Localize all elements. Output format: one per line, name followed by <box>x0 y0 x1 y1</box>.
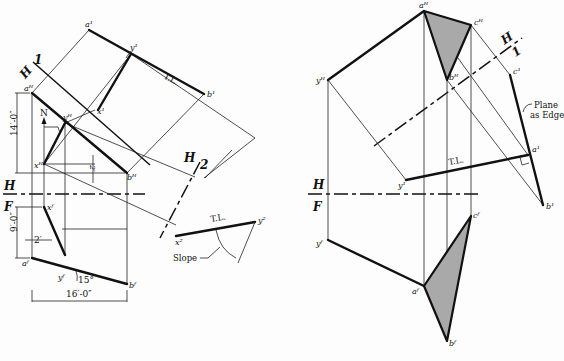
point-bF: bᶠ <box>129 281 137 290</box>
projector <box>447 80 543 205</box>
fold-label-f: F <box>3 200 14 214</box>
point-bH: bᴴ <box>127 173 137 182</box>
dim-14ft: 14′-0″ <box>9 110 19 136</box>
point-y1-right: y¹ <box>397 181 406 190</box>
north-label: N <box>40 108 48 118</box>
fold-label-h2-h: H <box>183 151 196 165</box>
fold-label-h: H <box>3 179 16 193</box>
triangle-h-view <box>424 11 471 80</box>
right-angle-mark-right <box>520 157 529 165</box>
triangle-f-view <box>424 216 471 341</box>
line-a1-b1 <box>89 30 204 94</box>
point-yH: yᴴ <box>62 113 73 122</box>
fold-label-h1-n: 1 <box>34 53 42 67</box>
point-c1-right: c¹ <box>513 67 521 76</box>
point-aF-right: aᶠ <box>412 287 420 296</box>
point-aH: aᴴ <box>24 84 34 93</box>
bearing-arc <box>44 127 60 133</box>
point-cH-right: cᴴ <box>474 18 483 27</box>
point-b1: b¹ <box>207 90 215 99</box>
fold-label-h1-n-right: 1 <box>509 43 524 59</box>
line-y1-x1 <box>98 54 131 110</box>
figure-svg: H F H 1 H 2 <box>0 0 564 361</box>
point-aF: aᶠ <box>22 259 30 268</box>
tl-label-right: T.L. <box>448 154 465 167</box>
projector <box>44 54 131 164</box>
point-yF: yᶠ <box>57 273 66 282</box>
dim-small: 2′ <box>88 164 97 172</box>
point-a1: a¹ <box>85 20 93 29</box>
line-yH-aH <box>328 11 424 80</box>
point-a1-right: a¹ <box>532 145 540 154</box>
slope-leader <box>200 247 220 258</box>
point-x2: x² <box>175 238 183 247</box>
dim-2ft: 2′ <box>34 235 42 245</box>
projector <box>205 150 232 178</box>
projector <box>328 80 406 180</box>
tl-label-2: T.L. <box>210 211 227 224</box>
line-yF-aF <box>328 240 424 286</box>
point-yH-right: yᴴ <box>315 76 326 85</box>
line-xF-yF <box>44 207 65 255</box>
slope-reference <box>238 222 255 263</box>
point-bH-right: bᴴ <box>449 73 459 82</box>
point-x1: x¹ <box>97 107 105 116</box>
north-arrow-head <box>42 117 47 124</box>
dim-16ft: 16′-0″ <box>66 289 92 299</box>
left-drawing: H F H 1 H 2 <box>3 20 266 302</box>
fold-label-h-right: H <box>312 178 325 192</box>
point-y2: y² <box>257 216 266 225</box>
projector <box>65 123 195 177</box>
slope-label: Slope <box>173 253 197 263</box>
point-bF-right: bᶠ <box>449 339 457 348</box>
fold-label-h1-h: H <box>16 63 35 82</box>
projector <box>204 138 255 178</box>
dim-9ft: 9′-0″ <box>9 211 19 232</box>
slope-arc <box>216 230 236 258</box>
descriptive-geometry-figure: H F H 1 H 2 <box>0 0 564 361</box>
plane-edge-label-2: as Edge <box>530 110 564 120</box>
tl-label-1: T.L. <box>162 71 180 87</box>
angle-15: 15° <box>78 275 94 285</box>
fold-line-h2 <box>160 162 200 238</box>
line-xH-yH <box>44 123 65 164</box>
point-xH: xᴴ <box>34 161 44 170</box>
plane-edge-label-1: Plane <box>534 100 558 110</box>
point-xF: xᶠ <box>47 203 55 212</box>
point-cF-right: cᶠ <box>473 211 480 220</box>
fold-label-f-right: F <box>312 200 323 214</box>
line-x2-y2 <box>176 222 255 236</box>
point-b1-right: b¹ <box>546 202 554 211</box>
plane-edge-line <box>510 75 543 205</box>
point-yF-right: yᶠ <box>315 239 324 248</box>
projector <box>131 54 255 138</box>
right-drawing: H F H 1 Plane as Edge T.L. aᴴ <box>308 1 564 348</box>
fold-label-h2-n: 2 <box>199 158 208 172</box>
point-aH-right: aᴴ <box>419 1 429 10</box>
point-y1: y¹ <box>129 43 138 52</box>
